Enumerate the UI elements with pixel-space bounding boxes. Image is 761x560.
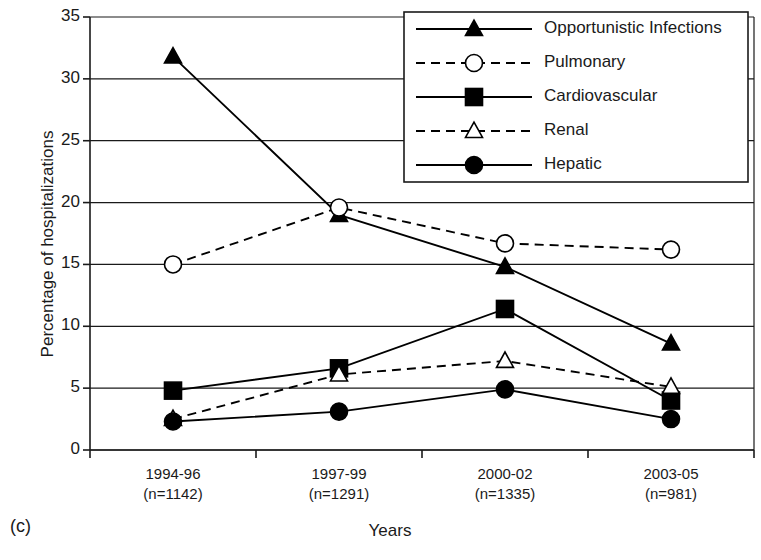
series-pulmonary [173, 208, 671, 265]
x-axis-tick-label: 1997-99(n=1291) [264, 464, 414, 505]
y-axis-tick-label: 0 [30, 439, 80, 459]
x-tick-sample-size: (n=1142) [98, 484, 248, 504]
legend-label: Opportunistic Infections [544, 18, 722, 38]
series-line [173, 389, 671, 421]
marker-filled-circle [663, 411, 680, 428]
x-tick-period: 1994-96 [98, 464, 248, 484]
marker-filled-circle [466, 157, 483, 174]
y-axis-tick-label: 20 [30, 192, 80, 212]
series-markers [165, 300, 680, 409]
y-axis-tick-label: 35 [30, 6, 80, 26]
marker-open-circle [497, 235, 514, 252]
x-tick-period: 2000-02 [430, 464, 580, 484]
legend-label: Cardiovascular [544, 86, 657, 106]
marker-open-circle [466, 55, 483, 72]
x-axis-title: Years [300, 521, 480, 541]
series-cardiovascular [173, 309, 671, 401]
x-axis-tick-label: 2000-02(n=1335) [430, 464, 580, 505]
series-line [173, 361, 671, 419]
x-tick-period: 1997-99 [264, 464, 414, 484]
marker-filled-square [466, 89, 483, 106]
series-line [173, 309, 671, 401]
y-axis-tick-label: 10 [30, 315, 80, 335]
x-axis-tick-label: 2003-05(n=981) [596, 464, 746, 505]
y-axis-tick-label: 15 [30, 253, 80, 273]
marker-filled-square [497, 300, 514, 317]
marker-filled-triangle [663, 335, 680, 350]
marker-filled-square [663, 392, 680, 409]
marker-filled-triangle [165, 48, 182, 63]
x-tick-sample-size: (n=981) [596, 484, 746, 504]
marker-filled-circle [165, 413, 182, 430]
legend-label: Hepatic [544, 154, 602, 174]
x-axis-tick-label: 1994-96(n=1142) [98, 464, 248, 505]
marker-open-circle [663, 241, 680, 258]
panel-letter-label: (c) [10, 516, 31, 537]
series-renal [173, 361, 671, 419]
marker-filled-circle [331, 403, 348, 420]
marker-filled-circle [497, 381, 514, 398]
y-axis-tick-label: 30 [30, 68, 80, 88]
legend-label: Pulmonary [544, 52, 625, 72]
x-tick-sample-size: (n=1291) [264, 484, 414, 504]
marker-filled-square [165, 382, 182, 399]
series-line [173, 208, 671, 265]
marker-open-triangle [497, 352, 514, 367]
x-tick-sample-size: (n=1335) [430, 484, 580, 504]
figure-panel-c: Percentage of hospitalizations Years (c)… [0, 0, 761, 560]
series-markers [165, 199, 680, 273]
y-axis-tick-label: 5 [30, 377, 80, 397]
y-axis-tick-label: 25 [30, 130, 80, 150]
marker-open-circle [165, 256, 182, 273]
legend-label: Renal [544, 120, 588, 140]
marker-open-circle [331, 199, 348, 216]
series-hepatic [173, 389, 671, 421]
x-tick-period: 2003-05 [596, 464, 746, 484]
